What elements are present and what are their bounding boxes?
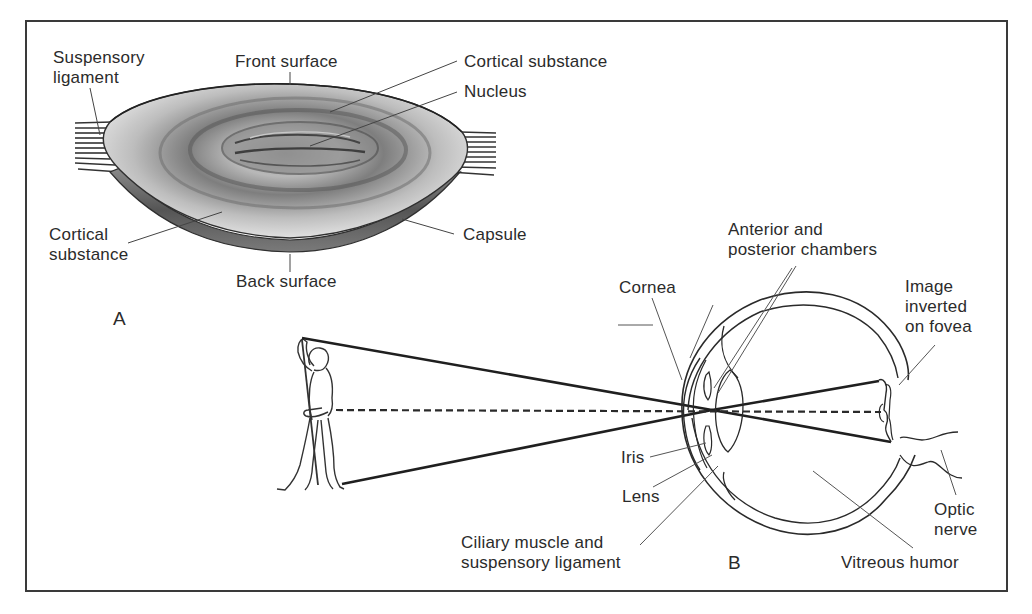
label-cornea: Cornea: [619, 278, 676, 298]
label-suspensory-ligament: Suspensory ligament: [53, 48, 145, 88]
light-rays: [302, 338, 891, 484]
label-cortical-substance-top: Cortical substance: [464, 52, 607, 72]
label-lens: Lens: [622, 487, 660, 507]
panel-letter-a: A: [113, 308, 126, 330]
panel-letter-b: B: [728, 552, 741, 574]
label-nucleus: Nucleus: [464, 82, 527, 102]
label-front-surface: Front surface: [235, 52, 338, 72]
label-optic-nerve: Optic nerve: [934, 500, 978, 540]
label-iris: Iris: [621, 448, 644, 468]
standing-figure: [277, 339, 344, 490]
label-vitreous-humor: Vitreous humor: [841, 553, 959, 573]
label-back-surface: Back surface: [236, 272, 337, 292]
label-image-inverted-on-fovea: Image inverted on fovea: [905, 277, 972, 337]
label-capsule: Capsule: [463, 225, 527, 245]
label-anterior-posterior-chambers: Anterior and posterior chambers: [728, 220, 877, 260]
lens-illustration: [75, 84, 496, 252]
label-ciliary-muscle-suspensory-ligament: Ciliary muscle and suspensory ligament: [461, 533, 621, 573]
label-cortical-substance-bottom: Cortical substance: [49, 225, 128, 265]
